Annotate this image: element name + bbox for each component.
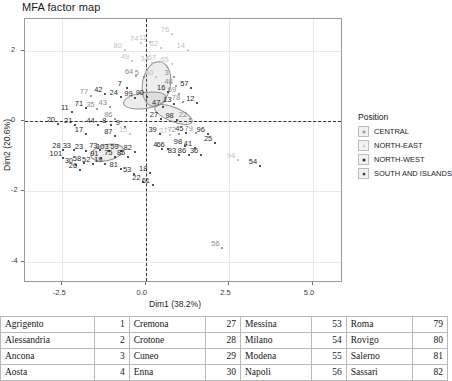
data-point-label: 26 (69, 161, 77, 170)
data-point-label: 24 (110, 88, 118, 97)
table-cell-name: Salerno (346, 349, 412, 365)
data-point-label: 64 (125, 66, 133, 75)
data-point-label: 27 (150, 109, 158, 118)
legend-key-icon (358, 140, 369, 151)
legend: Position CENTRALNORTH-EASTNORTH-WESTSOUT… (358, 112, 446, 182)
data-point (190, 87, 192, 89)
data-point (196, 102, 198, 104)
data-point-label: 65 (160, 55, 168, 64)
data-point-label: 60 (145, 67, 153, 76)
data-point (129, 133, 131, 135)
table-cell-name: Alessandria (1, 333, 95, 349)
legend-title: Position (358, 112, 446, 122)
data-point (171, 63, 173, 65)
data-point (221, 247, 223, 249)
data-point (176, 119, 178, 121)
legend-item-central[interactable]: CENTRAL (358, 126, 446, 137)
data-point-label: 8 (102, 116, 106, 125)
x-axis-tick (61, 282, 62, 285)
data-point-label: 77 (80, 87, 88, 96)
data-point-label: 42 (94, 84, 102, 93)
data-point-label: 43 (99, 98, 107, 107)
scatter-plot-panel: 8074117662144934676564560348571669742772… (24, 18, 342, 282)
y-axis-tick-label: -2 (11, 185, 102, 194)
data-point (62, 149, 64, 151)
x-axis-tick (312, 282, 313, 285)
data-point-label: 13 (163, 94, 171, 103)
table-cell-name: Sassari (346, 365, 412, 381)
legend-item-label: NORTH-EAST (374, 141, 423, 150)
table-cell-code: 82 (413, 365, 448, 381)
data-point-label: 99 (124, 88, 132, 97)
data-point-label: 19 (94, 155, 102, 164)
data-point-label: 94 (227, 150, 235, 159)
x-axis-tick-label: -2.5 (53, 288, 66, 297)
table-cell-name: Roma (346, 317, 412, 333)
data-point (131, 60, 133, 62)
data-point (120, 168, 122, 170)
data-point (90, 95, 92, 97)
legend-item-north-east[interactable]: NORTH-EAST (358, 140, 446, 151)
data-point-label: 98 (165, 110, 173, 119)
data-point-label: 98 (174, 137, 182, 146)
data-point-label: 49 (121, 52, 129, 61)
data-point-label: 23 (75, 141, 83, 150)
data-point (173, 103, 175, 105)
table-row: Ancona3Cuneo29Modena55Salerno81 (1, 349, 448, 365)
table-cell-name: Rovigo (346, 333, 412, 349)
table-cell-code: 28 (206, 333, 241, 349)
table-cell-code: 80 (413, 333, 448, 349)
data-point (200, 154, 202, 156)
legend-item-north-west[interactable]: NORTH-WEST (358, 154, 446, 165)
data-point-label: 56 (211, 238, 219, 247)
data-point-label: 22 (179, 110, 187, 119)
table-cell-name: Cuneo (129, 349, 205, 365)
data-point-label: 16 (157, 82, 165, 91)
table-cell-code: 1 (94, 317, 129, 333)
province-code-table: Agrigento1Cremona27Messina53Roma79Alessa… (0, 316, 448, 381)
y-axis-tick-label: 2 (11, 45, 102, 54)
table-cell-name: Napoli (241, 365, 312, 381)
data-point-label: 7 (118, 79, 122, 88)
table-cell-code: 53 (311, 317, 346, 333)
table-cell-name: Milano (241, 333, 312, 349)
data-point-label: 90 (136, 88, 144, 97)
data-point-label: 53 (123, 164, 131, 173)
data-point (178, 133, 180, 135)
page-title: MFA factor map (22, 1, 100, 13)
data-point-label: 11 (139, 32, 147, 41)
data-point (160, 118, 162, 120)
data-point-label: 85 (117, 147, 125, 156)
data-point-label: 35 (86, 100, 94, 109)
data-point-label: 18 (139, 164, 147, 173)
data-point (85, 133, 87, 135)
data-point (143, 76, 145, 78)
data-point-label: 83 (168, 146, 176, 155)
data-point (188, 154, 190, 156)
table-cell-code: 29 (206, 349, 241, 365)
data-point-label: 47 (152, 98, 160, 107)
table-cell-code: 56 (311, 365, 346, 381)
table-cell-name: Aosta (1, 365, 95, 381)
y-axis-tick-label: -4 (11, 256, 102, 265)
legend-item-south-and-islands[interactable]: SOUTH AND ISLANDS (358, 168, 446, 179)
data-point (155, 76, 157, 78)
data-point (237, 159, 239, 161)
x-axis-tick-label: 2.5 (220, 288, 230, 297)
y-axis-tick-label: 0 (11, 115, 102, 124)
legend-item-label: SOUTH AND ISLANDS (374, 169, 452, 178)
data-point-label: 101 (50, 149, 63, 158)
data-point-label: 3 (165, 68, 169, 77)
x-axis-tick-label: 5.0 (304, 288, 314, 297)
data-point (152, 184, 154, 186)
data-point (151, 62, 153, 64)
data-point-label: 96 (197, 125, 205, 134)
data-point (259, 165, 261, 167)
data-point-label: 66 (156, 140, 164, 149)
data-point-label: 80 (114, 40, 122, 49)
table-cell-code: 54 (311, 333, 346, 349)
data-point (171, 33, 173, 35)
table-cell-name: Modena (241, 349, 312, 365)
data-point-label: 17 (75, 125, 83, 134)
data-point-label: 39 (148, 124, 156, 133)
